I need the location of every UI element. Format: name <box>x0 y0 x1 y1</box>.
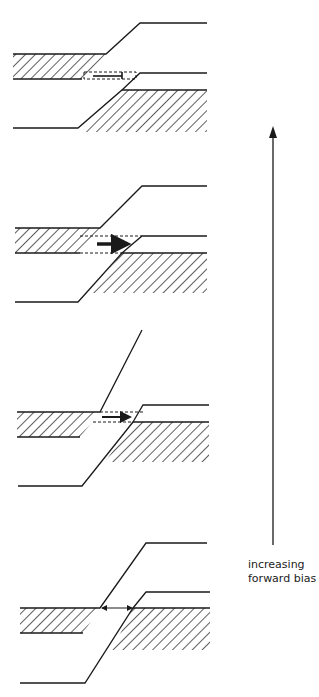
band-panel-1 <box>13 23 207 132</box>
band-panel-2 <box>15 186 207 302</box>
increasing-bias-arrow <box>269 126 277 545</box>
band-diagrams <box>0 0 319 697</box>
increasing-bias-label: increasing forward bias <box>248 558 316 586</box>
label-line-2: forward bias <box>248 572 316 586</box>
label-line-1: increasing <box>248 558 316 572</box>
band-panel-4 <box>20 543 210 683</box>
band-panel-3 <box>17 330 209 486</box>
